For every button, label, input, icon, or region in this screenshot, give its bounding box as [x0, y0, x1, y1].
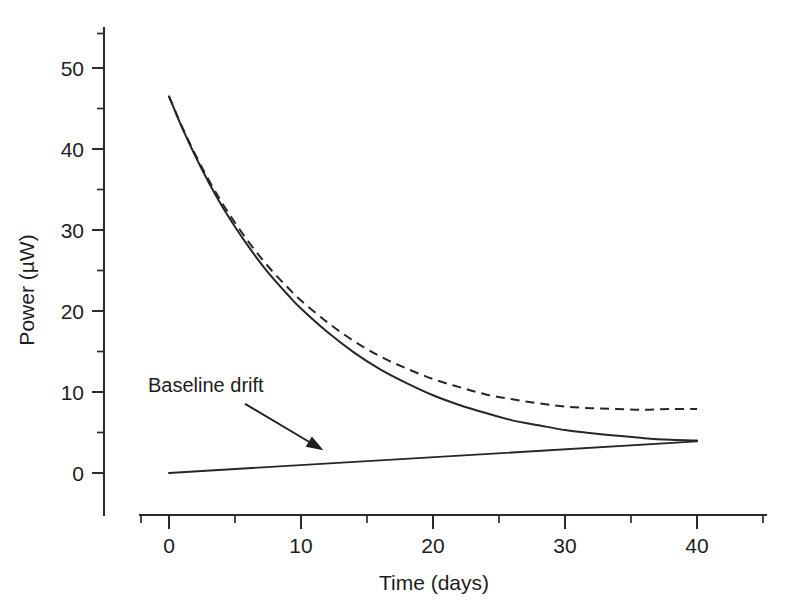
curve-baseline-drift: [169, 441, 697, 473]
power-vs-time-chart: 0 10 20 30 40 50 0 10 20 30 40 Time (day…: [0, 0, 791, 611]
baseline-drift-annotation-label: Baseline drift: [148, 374, 264, 396]
y-tick-label-30: 30: [61, 219, 84, 242]
y-tick-label-10: 10: [61, 381, 84, 404]
x-tick-label-20: 20: [421, 534, 444, 557]
data-curves: [169, 96, 697, 473]
baseline-drift-annotation-arrow: [246, 404, 324, 450]
x-tick-label-30: 30: [553, 534, 576, 557]
chart-figure: 0 10 20 30 40 50 0 10 20 30 40 Time (day…: [0, 0, 791, 611]
y-tick-label-0: 0: [72, 462, 84, 485]
y-axis-title: Power (µW): [15, 234, 38, 345]
curve-measured-signal-with-drift: [169, 96, 697, 409]
annotation-arrow-head: [306, 436, 324, 450]
x-tick-labels: 0 10 20 30 40: [163, 534, 709, 557]
x-axis-title: Time (days): [379, 571, 489, 594]
y-tick-label-40: 40: [61, 138, 84, 161]
x-tick-label-40: 40: [685, 534, 708, 557]
x-tick-label-10: 10: [289, 534, 312, 557]
y-tick-labels: 0 10 20 30 40 50: [61, 57, 84, 485]
y-tick-label-20: 20: [61, 300, 84, 323]
axis-spines: [104, 28, 766, 515]
x-axis-ticks: [141, 515, 763, 529]
y-axis-ticks: [92, 34, 104, 474]
annotation-arrow-shaft: [246, 404, 312, 443]
y-tick-label-50: 50: [61, 57, 84, 80]
x-tick-label-0: 0: [163, 534, 175, 557]
